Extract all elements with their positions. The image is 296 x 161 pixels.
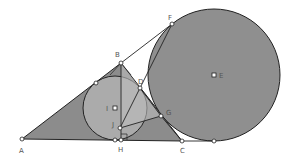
label-e: E <box>219 72 223 80</box>
point-b[interactable] <box>119 61 123 65</box>
point-j[interactable] <box>118 126 122 130</box>
point-f[interactable] <box>170 22 174 26</box>
label-b: B <box>115 51 120 59</box>
label-f: F <box>168 14 172 22</box>
point-e[interactable] <box>212 73 216 77</box>
point-a[interactable] <box>20 137 24 141</box>
point-d[interactable] <box>138 86 142 90</box>
label-c: C <box>180 147 185 155</box>
point-incircle-tangent-ac[interactable] <box>113 138 117 142</box>
point-c[interactable] <box>180 139 184 143</box>
point-i[interactable] <box>113 106 117 110</box>
geometry-diagram: A B C D E F G H I J <box>0 0 296 161</box>
point-excircle-tangent[interactable] <box>212 139 216 143</box>
point-incircle-tangent-ab[interactable] <box>94 81 98 85</box>
label-j: J <box>111 121 114 129</box>
label-g: G <box>166 109 171 117</box>
label-h: H <box>118 146 123 154</box>
label-d: D <box>138 78 143 86</box>
label-i: I <box>106 105 108 113</box>
label-a: A <box>19 147 24 155</box>
point-h[interactable] <box>119 138 123 142</box>
point-g[interactable] <box>159 114 163 118</box>
